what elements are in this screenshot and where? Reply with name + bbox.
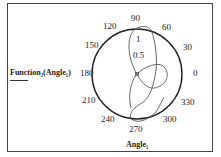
x-axis-label[interactable]: Angle₁ xyxy=(126,140,148,149)
tick-120: 120 xyxy=(103,21,117,31)
y-label-underline xyxy=(10,80,28,81)
tick-210: 210 xyxy=(82,95,96,105)
tick-330: 330 xyxy=(181,97,195,107)
tick-180: 180 xyxy=(80,68,94,78)
tick-90: 90 xyxy=(131,13,140,23)
function-curve xyxy=(129,26,167,121)
radial-tick-0.5: 0.5 xyxy=(133,50,144,60)
tick-270: 270 xyxy=(129,124,143,134)
tick-30: 30 xyxy=(183,42,192,52)
radial-tick-1: 1 xyxy=(136,34,141,44)
tick-0: 0 xyxy=(193,68,198,78)
tick-150: 150 xyxy=(85,40,99,50)
tick-60: 60 xyxy=(162,22,171,32)
y-axis-label[interactable]: Function₂(Angle₁) xyxy=(10,68,71,77)
tick-300: 300 xyxy=(163,114,177,124)
tick-240: 240 xyxy=(101,114,115,124)
